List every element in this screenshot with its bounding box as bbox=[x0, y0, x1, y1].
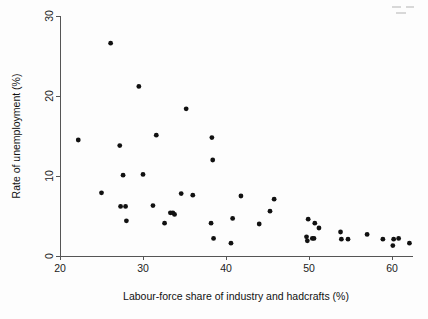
data-point bbox=[190, 193, 195, 198]
data-point bbox=[211, 236, 216, 241]
data-point bbox=[123, 204, 128, 209]
data-point bbox=[312, 221, 317, 226]
data-point bbox=[239, 194, 244, 199]
data-point bbox=[172, 212, 177, 217]
x-tick-label: 20 bbox=[54, 262, 66, 274]
data-point bbox=[390, 243, 395, 248]
data-point bbox=[179, 191, 184, 196]
data-point bbox=[76, 138, 81, 143]
axes bbox=[60, 16, 413, 256]
data-point bbox=[407, 241, 412, 246]
data-point bbox=[380, 237, 385, 242]
data-point bbox=[317, 226, 322, 231]
data-point bbox=[346, 237, 351, 242]
data-point bbox=[338, 230, 343, 235]
data-point bbox=[99, 190, 104, 195]
y-axis-title: Rate of unemployment (%) bbox=[10, 74, 22, 199]
data-point bbox=[339, 237, 344, 242]
y-tick-label: 0 bbox=[43, 253, 55, 259]
scatter-plot-figure: 20304050600102030 Labour-force share of … bbox=[0, 0, 428, 319]
x-tick-label: 50 bbox=[303, 262, 315, 274]
data-point bbox=[257, 222, 262, 227]
data-point bbox=[154, 133, 159, 138]
data-point bbox=[117, 143, 122, 148]
data-point bbox=[210, 158, 215, 163]
data-point bbox=[118, 204, 123, 209]
y-tick-label: 20 bbox=[43, 90, 55, 102]
data-point bbox=[391, 237, 396, 242]
data-point bbox=[108, 41, 113, 46]
x-tick-label: 30 bbox=[137, 262, 149, 274]
data-point bbox=[124, 218, 129, 223]
data-point bbox=[312, 236, 317, 241]
x-tick-label: 40 bbox=[220, 262, 232, 274]
data-points bbox=[76, 41, 412, 248]
data-point bbox=[136, 84, 141, 89]
data-point bbox=[209, 221, 214, 226]
data-point bbox=[306, 217, 311, 222]
x-axis-title: Labour-force share of industry and hadcr… bbox=[123, 290, 349, 302]
data-point bbox=[184, 106, 189, 111]
data-point bbox=[272, 197, 277, 202]
plot-canvas: 20304050600102030 Labour-force share of … bbox=[0, 0, 428, 319]
data-point bbox=[396, 236, 401, 241]
tick-labels: 20304050600102030 bbox=[43, 10, 398, 274]
data-point bbox=[162, 221, 167, 226]
data-point bbox=[121, 173, 126, 178]
data-point bbox=[229, 241, 234, 246]
y-tick-label: 10 bbox=[43, 170, 55, 182]
data-point bbox=[268, 209, 273, 214]
scan-artifacts bbox=[392, 6, 414, 14]
x-tick-label: 60 bbox=[386, 262, 398, 274]
data-point bbox=[141, 172, 146, 177]
data-point bbox=[304, 234, 309, 239]
tick-marks bbox=[56, 16, 392, 260]
data-point bbox=[151, 203, 156, 208]
data-point bbox=[209, 135, 214, 140]
data-point bbox=[305, 238, 310, 243]
y-tick-label: 30 bbox=[43, 10, 55, 22]
data-point bbox=[365, 232, 370, 237]
data-point bbox=[230, 216, 235, 221]
